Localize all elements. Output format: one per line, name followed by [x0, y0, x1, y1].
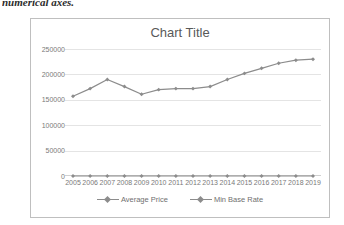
series-marker	[311, 174, 315, 178]
x-axis-tick-label: 2017	[271, 179, 287, 187]
series-marker	[140, 92, 144, 96]
series-marker	[157, 88, 161, 92]
series-marker	[260, 174, 264, 178]
series-marker	[71, 174, 75, 178]
series-line	[73, 59, 313, 96]
x-axis-tick-label: 2008	[117, 179, 133, 187]
series-marker	[260, 66, 264, 70]
series-marker	[294, 174, 298, 178]
legend-label: Min Base Rate	[214, 195, 263, 204]
x-axis-tick-label: 2006	[82, 179, 98, 187]
x-axis-tick-label: 2019	[305, 179, 321, 187]
y-axis-tick-label: 200000	[25, 71, 65, 78]
series-marker	[242, 174, 246, 178]
y-axis-tick-label: 100000	[25, 122, 65, 129]
x-axis-tick-label: 2012	[185, 179, 201, 187]
y-axis-tick-label: 0	[25, 173, 65, 180]
page-root: numerical axes. Chart Title 050000100000…	[0, 0, 344, 225]
series-layer	[65, 49, 321, 176]
series-marker	[294, 58, 298, 62]
x-axis-tick-label: 2013	[202, 179, 218, 187]
x-axis-tick-label: 2010	[151, 179, 167, 187]
series-marker	[277, 174, 281, 178]
series-marker	[122, 174, 126, 178]
series-marker	[122, 85, 126, 89]
document-caption: numerical axes.	[2, 0, 202, 8]
y-axis-tick-label: 150000	[25, 96, 65, 103]
series-marker	[242, 71, 246, 75]
legend-marker-icon	[97, 196, 119, 204]
chart-legend: Average PriceMin Base Rate	[31, 195, 329, 204]
series-marker	[174, 174, 178, 178]
legend-entry[interactable]: Average Price	[97, 195, 168, 204]
y-axis-tick-labels: 050000100000150000200000250000	[21, 49, 65, 176]
series-marker	[225, 174, 229, 178]
x-axis-tick-label: 2011	[168, 179, 183, 187]
plot-area: 050000100000150000200000250000 200520062…	[65, 49, 321, 176]
legend-entry[interactable]: Min Base Rate	[190, 195, 263, 204]
series-marker	[140, 174, 144, 178]
caption-text: numerical axes.	[2, 0, 202, 8]
series-marker	[311, 57, 315, 61]
x-axis-tick-labels: 2005200620072008200920102011201220132014…	[65, 179, 321, 191]
series-marker	[208, 174, 212, 178]
chart-title: Chart Title	[31, 25, 329, 40]
legend-label: Average Price	[121, 195, 168, 204]
series-marker	[191, 87, 195, 91]
x-axis-tick-label: 2015	[237, 179, 253, 187]
x-axis-tick-label: 2014	[219, 179, 235, 187]
series-marker	[225, 78, 229, 82]
series-marker	[105, 174, 109, 178]
x-axis-tick-label: 2005	[65, 179, 81, 187]
chart-container: Chart Title 0500001000001500002000002500…	[30, 18, 330, 218]
x-axis-tick-label: 2007	[99, 179, 115, 187]
series-marker	[277, 61, 281, 65]
y-axis-tick-label: 50000	[25, 147, 65, 154]
series-marker	[208, 85, 212, 89]
x-axis-tick-label: 2018	[288, 179, 304, 187]
series-marker	[157, 174, 161, 178]
series-marker	[191, 174, 195, 178]
series-marker	[71, 94, 75, 98]
y-axis-tick-label: 250000	[25, 46, 65, 53]
x-axis-tick-label: 2009	[134, 179, 150, 187]
legend-marker-icon	[190, 196, 212, 204]
x-axis-tick-label: 2016	[254, 179, 270, 187]
series-marker	[88, 174, 92, 178]
series-marker	[174, 87, 178, 91]
